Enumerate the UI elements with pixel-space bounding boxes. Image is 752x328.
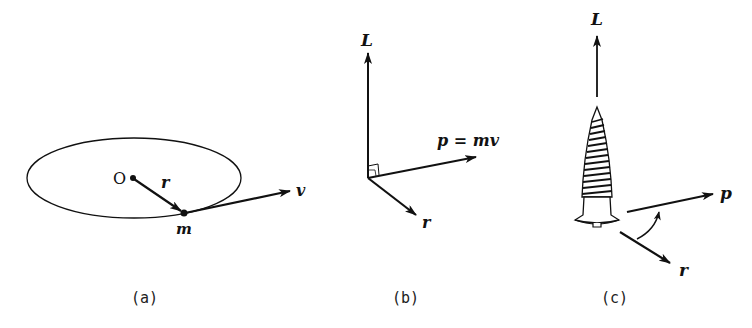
radius-arrow <box>368 178 416 215</box>
panel-c: L p r <box>575 9 732 307</box>
radius-arrow <box>620 232 670 263</box>
right-angle-marker <box>368 164 379 175</box>
screw-icon <box>575 107 619 227</box>
rotation-arrow <box>637 212 659 239</box>
velocity-vector-arrow <box>185 191 290 213</box>
momentum-label: p = mv <box>437 131 500 150</box>
momentum-label: p <box>720 183 732 203</box>
caption-c: (c) <box>601 289 628 307</box>
panel-b: L p = mv r (b) <box>360 30 500 307</box>
figure-canvas: O r v m (a) L p = mv r (b) L <box>0 0 752 328</box>
mass-label: m <box>176 220 192 238</box>
origin-label: O <box>113 169 126 188</box>
angular-momentum-label: L <box>360 30 373 50</box>
radius-label: r <box>161 173 171 192</box>
momentum-arrow <box>627 194 713 212</box>
angular-momentum-label: L <box>590 9 603 29</box>
momentum-arrow <box>368 157 476 178</box>
right-angle-marker-2 <box>369 170 376 176</box>
caption-b: (b) <box>392 289 419 307</box>
panel-a: O r v m (a) <box>27 138 306 307</box>
radius-vector-arrow <box>134 179 181 211</box>
velocity-label: v <box>296 181 306 200</box>
radius-label: r <box>422 213 432 232</box>
caption-a: (a) <box>131 289 158 307</box>
radius-label: r <box>679 260 689 280</box>
